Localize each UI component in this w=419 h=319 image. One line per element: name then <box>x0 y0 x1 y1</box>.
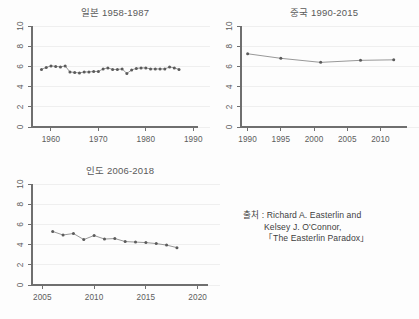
source-line-3: 「The Easterlin Paradox」 <box>243 233 419 245</box>
series-data-point <box>111 68 114 71</box>
chart-title: 중국 1990-2015 <box>290 7 358 18</box>
series-data-point <box>130 68 133 71</box>
y-tick-label: 2 <box>225 104 234 109</box>
chart-panel-india: 인도 2006-201802468102005201020152020 <box>0 160 220 315</box>
source-line-1: 출처 : Richard A. Easterlin and <box>243 210 419 222</box>
y-tick-label: 8 <box>16 202 25 207</box>
series-data-point <box>51 230 54 233</box>
chart-svg-japan: 일본 1958-198702468101960197019801990 <box>0 2 210 157</box>
series-data-point <box>154 67 157 70</box>
series-data-point <box>40 68 43 71</box>
y-tick-label: 4 <box>16 84 25 89</box>
x-tick-label: 1970 <box>89 135 108 144</box>
x-tick-label: 2005 <box>33 293 52 302</box>
chart-panel-china: 중국 1990-2015024681019901995200020052010 <box>209 2 419 157</box>
y-tick-label: 0 <box>225 124 234 129</box>
chart-title: 일본 1958-1987 <box>81 7 149 18</box>
x-tick-label: 1990 <box>184 135 203 144</box>
chart-page: 일본 1958-198702468101960197019801990 중국 1… <box>0 0 419 319</box>
y-tick-label: 2 <box>16 104 25 109</box>
series-data-point <box>102 67 105 70</box>
series-data-point <box>73 71 76 74</box>
chart-title: 인도 2006-2018 <box>86 165 154 176</box>
series-data-point <box>165 244 168 247</box>
series-data-point <box>62 234 65 237</box>
chart-svg-india: 인도 2006-201802468102005201020152020 <box>0 160 220 315</box>
series-data-point <box>64 64 67 67</box>
series-data-point <box>59 65 62 68</box>
series-data-point <box>319 61 322 64</box>
source-line-2: Kelsey J. O'Connor, <box>243 222 419 234</box>
y-tick-label: 6 <box>16 64 25 69</box>
x-tick-label: 1990 <box>238 135 257 144</box>
series-data-point <box>279 57 282 60</box>
series-data-point <box>392 58 395 61</box>
source-citation: 출처 : Richard A. Easterlin and Kelsey J. … <box>243 210 419 270</box>
y-tick-label: 6 <box>225 64 234 69</box>
y-tick-label: 0 <box>16 282 25 287</box>
series-data-point <box>173 66 176 69</box>
series-data-point <box>116 68 119 71</box>
series-data-point <box>83 70 86 73</box>
x-tick-label: 2005 <box>338 135 357 144</box>
series-data-point <box>175 246 178 249</box>
y-tick-label: 4 <box>16 242 25 247</box>
series-data-point <box>72 232 75 235</box>
series-data-point <box>54 65 57 68</box>
x-tick-label: 2010 <box>85 293 104 302</box>
series-data-point <box>178 68 181 71</box>
series-data-point <box>82 238 85 241</box>
y-tick-label: 10 <box>16 179 25 189</box>
series-data-point <box>68 70 71 73</box>
y-tick-label: 10 <box>16 21 25 31</box>
series-data-point <box>155 242 158 245</box>
series-data-point <box>78 71 81 74</box>
series-data-point <box>49 64 52 67</box>
series-data-point <box>93 234 96 237</box>
series-line <box>41 66 179 74</box>
x-tick-label: 2010 <box>371 135 390 144</box>
series-data-point <box>106 66 109 69</box>
series-data-point <box>359 59 362 62</box>
series-data-point <box>140 66 143 69</box>
series-data-point <box>125 72 128 75</box>
series-data-point <box>121 67 124 70</box>
series-data-point <box>92 70 95 73</box>
y-tick-label: 0 <box>16 124 25 129</box>
y-tick-label: 2 <box>16 262 25 267</box>
series-data-point <box>144 241 147 244</box>
series-data-point <box>149 67 152 70</box>
series-data-point <box>87 70 90 73</box>
series-data-point <box>103 238 106 241</box>
series-data-point <box>246 52 249 55</box>
chart-svg-china: 중국 1990-2015024681019901995200020052010 <box>209 2 419 157</box>
x-tick-label: 2000 <box>305 135 324 144</box>
series-data-point <box>144 66 147 69</box>
y-tick-label: 8 <box>16 44 25 49</box>
series-data-point <box>168 65 171 68</box>
y-tick-label: 10 <box>225 21 234 31</box>
series-data-point <box>159 67 162 70</box>
series-data-point <box>134 241 137 244</box>
y-tick-label: 6 <box>16 222 25 227</box>
series-data-point <box>113 237 116 240</box>
series-data-point <box>45 66 48 69</box>
series-data-point <box>97 70 100 73</box>
y-tick-label: 4 <box>225 84 234 89</box>
series-data-point <box>135 67 138 70</box>
y-tick-label: 8 <box>225 44 234 49</box>
chart-panel-japan: 일본 1958-198702468101960197019801990 <box>0 2 210 157</box>
x-tick-label: 1960 <box>42 135 61 144</box>
x-tick-label: 1980 <box>137 135 156 144</box>
x-tick-label: 2015 <box>137 293 156 302</box>
series-data-point <box>124 240 127 243</box>
x-tick-label: 1995 <box>272 135 291 144</box>
series-data-point <box>163 67 166 70</box>
x-tick-label: 2020 <box>188 293 207 302</box>
